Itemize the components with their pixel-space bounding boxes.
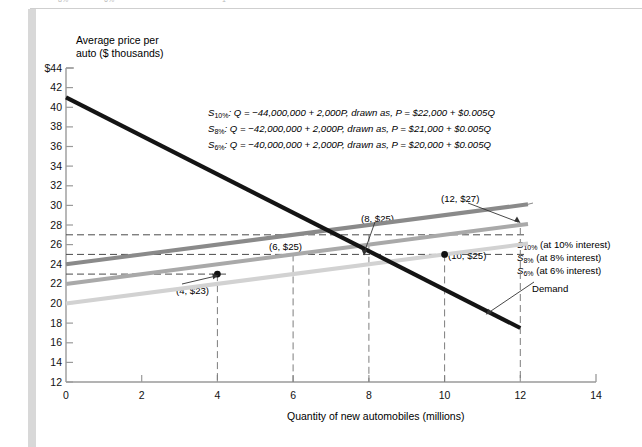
remnant-fragment-1: 6% bbox=[104, 0, 114, 3]
x-tick-label-2: 2 bbox=[139, 389, 145, 401]
leader-line-demand bbox=[488, 282, 534, 313]
y-tick-label-14: 14 bbox=[50, 356, 62, 368]
y-tick-label-32: 32 bbox=[50, 179, 62, 191]
y-tick-label-24: 24 bbox=[50, 258, 62, 270]
plot-canvas: $44 42 40 38 36 34 32 30 28 26 24 22 20 … bbox=[36, 10, 642, 447]
y-tick-label-12: 12 bbox=[50, 376, 62, 388]
y-tick-label-36: 36 bbox=[50, 140, 62, 152]
y-tick-label-38: 38 bbox=[50, 120, 62, 132]
y-tick-label-30: 30 bbox=[50, 199, 62, 211]
figure-left-gutter bbox=[28, 9, 36, 447]
y-tick-label-16: 16 bbox=[50, 336, 62, 348]
y-tick-label-22: 22 bbox=[50, 277, 62, 289]
y-axis-ticks bbox=[66, 68, 73, 382]
x-tick-label-10: 10 bbox=[439, 389, 451, 401]
y-tick-label-26: 26 bbox=[50, 238, 62, 250]
x-axis-tick-labels: 0 2 4 6 8 10 12 14 bbox=[63, 389, 602, 401]
legend-connector-lines bbox=[528, 203, 533, 204]
y-tick-label-34: 34 bbox=[50, 160, 62, 172]
x-axis-ticks bbox=[142, 375, 521, 382]
remnant-fragment-2: 1 bbox=[222, 0, 226, 3]
x-tick-label-14: 14 bbox=[590, 389, 602, 401]
figure-supply-demand-autos: Average price per auto ($ thousands) Qua… bbox=[36, 10, 642, 447]
x-tick-label-12: 12 bbox=[514, 389, 526, 401]
x-tick-label-4: 4 bbox=[214, 389, 220, 401]
remnant-fragment-0: 8% bbox=[58, 0, 68, 3]
page-top-remnant: 8% 6% 1 bbox=[0, 0, 642, 9]
x-tick-label-0: 0 bbox=[63, 389, 69, 401]
y-tick-label-40: 40 bbox=[50, 101, 62, 113]
leader-arrow-12-27 bbox=[514, 216, 520, 223]
remnant-divider bbox=[30, 8, 642, 9]
y-tick-label-20: 20 bbox=[50, 297, 62, 309]
y-tick-label-28: 28 bbox=[50, 219, 62, 231]
x-tick-label-8: 8 bbox=[366, 389, 372, 401]
y-tick-label-44: $44 bbox=[44, 62, 62, 74]
y-tick-label-42: 42 bbox=[50, 81, 62, 93]
y-tick-label-18: 18 bbox=[50, 317, 62, 329]
x-tick-label-6: 6 bbox=[290, 389, 296, 401]
y-axis-tick-labels: $44 42 40 38 36 34 32 30 28 26 24 22 20 … bbox=[44, 62, 62, 388]
data-point-marker-10-25 bbox=[441, 251, 448, 258]
